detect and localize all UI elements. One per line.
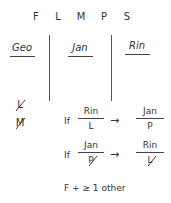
column-divider-1 xyxy=(49,35,50,101)
fraction-bottom: P xyxy=(136,121,164,131)
arrow-icon: → xyxy=(110,114,119,127)
entity-f: F xyxy=(31,11,41,22)
column-divider-2 xyxy=(111,35,112,101)
fraction-bar xyxy=(78,118,104,119)
fraction-top: Jan xyxy=(78,140,104,150)
rule-result: Rin L xyxy=(136,140,164,165)
rule-prefix: If xyxy=(64,150,70,160)
negation-slash-icon xyxy=(147,155,157,167)
strike-icon xyxy=(14,117,26,131)
fraction-bar xyxy=(136,118,164,119)
entity-p: P xyxy=(99,11,109,22)
fraction-bar xyxy=(136,152,164,153)
column-header-label: Geo xyxy=(12,42,32,53)
arrow-icon: → xyxy=(110,148,119,161)
strike-icon xyxy=(14,99,26,113)
fraction-top: Rin xyxy=(78,106,104,116)
rule-prefix: If xyxy=(64,116,70,126)
negation-slash-icon xyxy=(88,155,98,167)
header-underline-jan xyxy=(68,56,93,57)
fraction-bottom: L xyxy=(78,121,104,131)
header-underline-geo xyxy=(10,56,35,57)
geo-not-l: L xyxy=(14,99,26,113)
fraction-top: Jan xyxy=(136,106,164,116)
column-header-rin: Rin xyxy=(123,40,151,51)
constraint-note: F + ≥ 1 other xyxy=(64,183,125,193)
fraction-bottom-negated: L xyxy=(147,155,152,165)
fraction-bar xyxy=(78,152,104,153)
fraction-bottom-negated: P xyxy=(88,155,93,165)
fraction-top: Rin xyxy=(136,140,164,150)
rule-condition: Rin L xyxy=(78,106,104,131)
rule-result: Jan P xyxy=(136,106,164,131)
column-header-geo: Geo xyxy=(8,42,36,53)
column-header-label: Jan xyxy=(72,42,87,53)
column-header-label: Rin xyxy=(129,40,145,51)
header-underline-rin xyxy=(125,54,150,55)
entity-m: M xyxy=(76,11,86,22)
geo-not-m: M xyxy=(14,117,26,131)
entity-s: S xyxy=(122,11,132,22)
rule-condition: Jan P xyxy=(78,140,104,165)
column-header-jan: Jan xyxy=(66,42,94,53)
entity-l: L xyxy=(53,11,63,22)
